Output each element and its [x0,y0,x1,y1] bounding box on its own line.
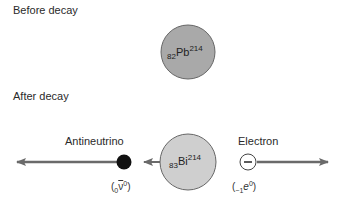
daughter-mass-number: 214 [188,153,201,162]
electron-formula: (−1e0) [232,180,256,194]
daughter-atomic-number: 83 [169,161,178,170]
decay-diagram-graphics [0,0,340,205]
parent-symbol: Pb [176,46,189,58]
daughter-nucleus-label: 83Bi214 [169,153,201,170]
parent-atomic-number: 82 [167,52,176,61]
electron-label: Electron [238,135,278,147]
parent-mass-number: 214 [189,44,202,53]
parent-nucleus-label: 82Pb214 [167,44,203,61]
antineutrino-particle [117,155,132,170]
antineutrino-label: Antineutrino [65,135,124,147]
daughter-symbol: Bi [178,155,188,167]
antineutrino-formula: (0ν0) [111,180,131,194]
